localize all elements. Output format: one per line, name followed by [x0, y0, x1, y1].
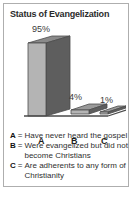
- value-label-a: 95%: [32, 24, 50, 34]
- legend-text-b: Were evangelized but did not become Chri…: [24, 141, 128, 161]
- legend-text-a: Have never heard the gospel: [24, 131, 128, 141]
- legend-separator-b: =: [16, 141, 25, 151]
- chart-legend: A = Have never heard the gospel B = Were…: [10, 131, 128, 181]
- chart-card: Status of Evangelization: [3, 3, 129, 187]
- bar-a: [28, 36, 70, 116]
- value-label-b: 4%: [69, 92, 82, 102]
- legend-item-b: B = Were evangelized but did not become …: [10, 141, 128, 161]
- bar-chart: 95% 4% 1% A B C: [8, 23, 126, 125]
- legend-text-c: Are adherents to any form of Christianit…: [24, 161, 128, 181]
- legend-separator-c: =: [16, 161, 25, 171]
- chart-canvas: [8, 23, 126, 125]
- legend-separator-a: =: [16, 131, 25, 141]
- page-title: Status of Evangelization: [10, 9, 109, 19]
- legend-item-c: C = Are adherents to any form of Christi…: [10, 161, 128, 181]
- legend-item-a: A = Have never heard the gospel: [10, 131, 128, 141]
- value-label-c: 1%: [100, 95, 113, 105]
